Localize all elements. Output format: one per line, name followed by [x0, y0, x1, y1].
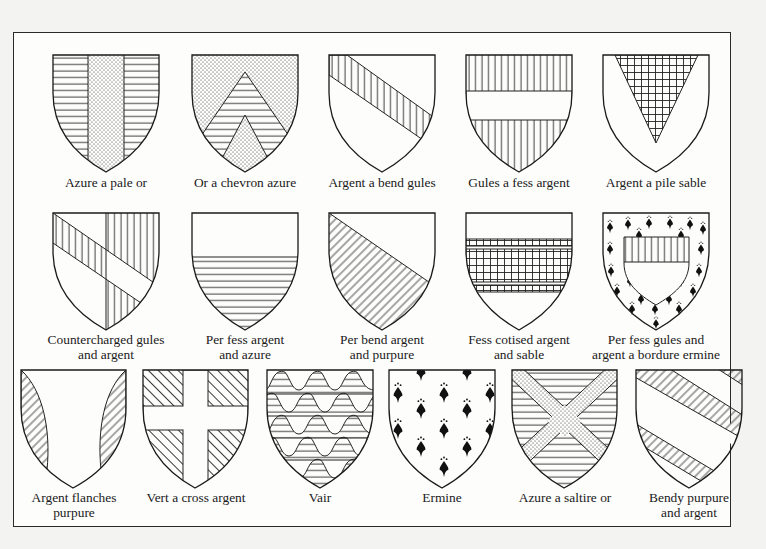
- shield-vair: [253, 370, 377, 490]
- shield-argent-a-pile-sable: [603, 55, 709, 172]
- label-line: purpure: [32, 505, 117, 520]
- shield-ermine: [389, 361, 495, 488]
- shield-gules-a-fess-argent: [466, 55, 572, 172]
- shield-fess-cotised-argent-and-sable: [466, 213, 572, 330]
- label-line: and argent: [48, 347, 165, 362]
- label-vert-a-cross-argent: Vert a cross argent: [146, 490, 245, 505]
- shield-azure-a-pale-or: [53, 55, 159, 172]
- label-line: Countercharged gules: [48, 332, 165, 347]
- label-fess-cotised-argent-and-sable: Fess cotised argentand sable: [468, 332, 570, 362]
- label-line: and argent: [649, 505, 729, 520]
- label-line: Gules a fess argent: [468, 175, 569, 190]
- shield-per-fess-gules-and-argent-a-bordure-ermine: [603, 213, 709, 330]
- label-line: argent a bordure ermine: [592, 347, 720, 362]
- label-line: Per bend argent: [340, 332, 424, 347]
- shield-vert-a-cross-argent: [143, 370, 248, 490]
- label-line: Argent a pile sable: [606, 175, 707, 190]
- label-line: Ermine: [422, 490, 461, 505]
- label-per-bend-argent-and-purpure: Per bend argentand purpure: [340, 332, 424, 362]
- label-line: Argent flanches: [32, 490, 117, 505]
- shield-or-a-chevron-azure: [188, 55, 302, 185]
- shield-countercharged-gules-and-argent: [53, 213, 163, 330]
- label-ermine: Ermine: [422, 490, 461, 505]
- label-line: and purpure: [340, 347, 424, 362]
- shield-per-fess-argent-and-azure: [192, 213, 298, 337]
- shield-argent-flanches-purpure: [21, 370, 126, 488]
- label-argent-a-pile-sable: Argent a pile sable: [606, 175, 707, 190]
- label-line: and sable: [468, 347, 570, 362]
- label-azure-a-saltire-or: Azure a saltire or: [519, 490, 612, 505]
- label-line: Vair: [309, 490, 331, 505]
- label-line: Azure a saltire or: [519, 490, 612, 505]
- label-vair: Vair: [309, 490, 331, 505]
- label-azure-a-pale-or: Azure a pale or: [65, 175, 147, 190]
- label-line: Vert a cross argent: [146, 490, 245, 505]
- label-argent-flanches-purpure: Argent flanchespurpure: [32, 490, 117, 520]
- label-line: Argent a bend gules: [328, 175, 435, 190]
- label-argent-a-bend-gules: Argent a bend gules: [328, 175, 435, 190]
- label-line: Bendy purpure: [649, 490, 729, 505]
- shields-canvas: [0, 0, 766, 549]
- shield-azure-a-saltire-or: [506, 364, 623, 490]
- label-bendy-purpure-and-argent: Bendy purpureand argent: [649, 490, 729, 520]
- shield-per-bend-argent-and-purpure: [329, 213, 439, 343]
- label-line: Per fess argent: [206, 332, 285, 347]
- label-line: Or a chevron azure: [194, 175, 296, 190]
- label-countercharged-gules-and-argent: Countercharged gulesand argent: [48, 332, 165, 362]
- label-gules-a-fess-argent: Gules a fess argent: [468, 175, 569, 190]
- label-or-a-chevron-azure: Or a chevron azure: [194, 175, 296, 190]
- label-line: Per fess gules and: [592, 332, 720, 347]
- label-per-fess-argent-and-azure: Per fess argentand azure: [206, 332, 285, 362]
- shield-argent-a-bend-gules: [329, 55, 439, 172]
- label-per-fess-gules-and-argent-a-bordure-ermine: Per fess gules andargent a bordure ermin…: [592, 332, 720, 362]
- label-line: and azure: [206, 347, 285, 362]
- label-line: Fess cotised argent: [468, 332, 570, 347]
- label-line: Azure a pale or: [65, 175, 147, 190]
